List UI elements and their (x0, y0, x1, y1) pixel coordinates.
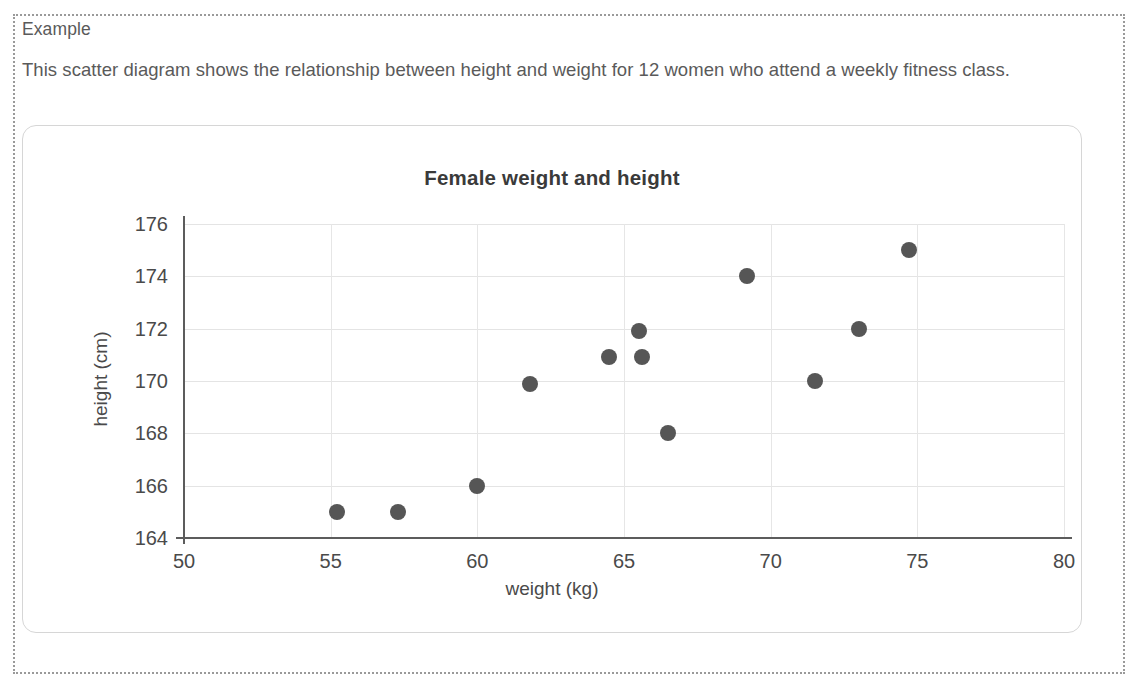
example-description: This scatter diagram shows the relations… (22, 55, 1062, 85)
x-tick-label: 80 (1053, 550, 1075, 573)
data-point (901, 242, 917, 258)
x-axis-line (176, 537, 1072, 539)
gridline-vertical (771, 224, 772, 538)
x-tick-label: 60 (466, 550, 488, 573)
gridline-vertical (331, 224, 332, 538)
data-point (601, 349, 617, 365)
data-point (851, 321, 867, 337)
data-point (807, 373, 823, 389)
scatter-chart-card: Female weight and height height (cm) wei… (22, 125, 1082, 633)
y-tick-label: 166 (135, 474, 168, 497)
gridline-vertical (917, 224, 918, 538)
gridline-vertical (1064, 224, 1065, 538)
data-point (390, 504, 406, 520)
example-heading: Example (22, 19, 91, 40)
y-tick-label: 164 (135, 527, 168, 550)
y-tick-label: 174 (135, 265, 168, 288)
x-tick-label: 70 (760, 550, 782, 573)
gridline-vertical (624, 224, 625, 538)
y-tick-label: 170 (135, 370, 168, 393)
chart-title: Female weight and height (23, 166, 1081, 190)
data-point (469, 478, 485, 494)
x-tick-label: 75 (906, 550, 928, 573)
data-point (660, 425, 676, 441)
x-tick-label: 55 (320, 550, 342, 573)
x-axis-title: weight (kg) (23, 578, 1081, 600)
x-tick-label: 65 (613, 550, 635, 573)
y-axis-title: height (cm) (90, 331, 112, 426)
y-axis-line (183, 216, 185, 544)
y-tick-label: 176 (135, 213, 168, 236)
data-point (522, 376, 538, 392)
y-tick-label: 172 (135, 317, 168, 340)
x-tick-label: 50 (173, 550, 195, 573)
data-point (634, 349, 650, 365)
y-tick-label: 168 (135, 422, 168, 445)
data-point (739, 268, 755, 284)
plot-area: 164166168170172174176 50556065707580 (184, 224, 1064, 538)
data-point (631, 323, 647, 339)
data-point (329, 504, 345, 520)
